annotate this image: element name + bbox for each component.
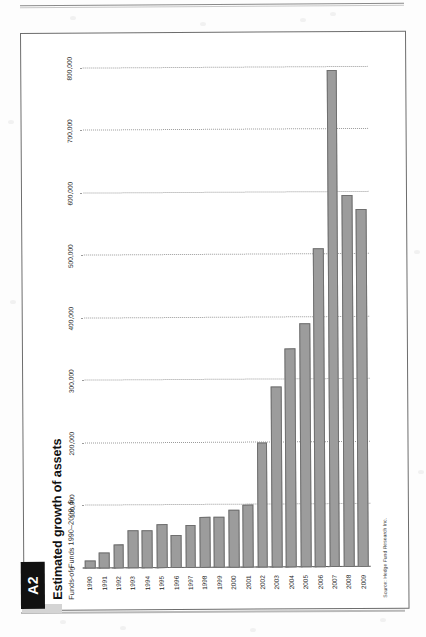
scan-speckle [8,120,14,124]
axis-tick-label: 100,000 [68,494,75,518]
axis-tick-label: 400,000 [67,307,74,331]
category-tick [97,568,101,569]
category-tick [112,567,116,568]
category-tick [212,567,216,568]
category-label-1997: 1997 [187,576,194,590]
scan-speckle [70,16,76,20]
category-tick [126,567,130,568]
bar [214,517,225,568]
category-tick [83,568,87,569]
bar [142,531,153,569]
category-tick [270,566,274,567]
category-tick [227,567,231,568]
category-label-1995: 1995 [158,576,165,590]
gridline [81,253,369,256]
axis-tick-label: 700,000 [66,119,73,143]
bar [185,525,196,568]
plot-area: 0100,000200,000300,000400,000500,000600,… [80,67,371,569]
gridline [82,503,370,506]
scan-speckle [250,628,256,632]
scan-speckle [414,250,420,254]
axis-tick-label: 500,000 [67,244,74,268]
scan-speckle [200,22,206,26]
category-label-2002: 2002 [259,575,266,589]
bar [285,349,297,568]
bar [313,248,326,567]
bar [271,387,283,568]
chart-title: Estimated growth of assets [50,439,65,600]
gridline [82,441,370,444]
category-label-1990: 1990 [86,576,93,590]
bar [156,524,167,568]
category-label-1998: 1998 [201,576,208,590]
scan-speckle [120,626,126,630]
scan-speckle [300,18,306,22]
category-label-1993: 1993 [129,576,136,590]
category-label-2009: 2009 [360,575,367,589]
category-label-2003: 2003 [273,575,280,589]
category-tick [241,567,245,568]
category-label-1991: 1991 [100,576,107,590]
category-tick [198,567,202,568]
axis-tick-label: 0 [69,567,76,571]
gridline [80,66,368,69]
category-label-1994: 1994 [144,576,151,590]
scan-speckle [60,620,66,624]
category-label-1992: 1992 [115,576,122,590]
scan-speckle [330,12,336,16]
category-tick [342,566,346,567]
category-tick [155,567,159,568]
category-label-2008: 2008 [345,575,352,589]
category-label-1996: 1996 [172,576,179,590]
category-tick [313,566,317,567]
category-tick [356,566,360,567]
bar [356,209,369,567]
category-tick [256,567,260,568]
axis-tick-label: 300,000 [68,369,75,393]
scan-speckle [418,470,424,474]
category-label-2001: 2001 [244,575,251,589]
bar [257,442,269,567]
bar [299,323,311,567]
chapter-tag-badge: A2 [21,562,45,609]
scan-speckle [10,300,16,304]
rotated-page-content: A2 Estimated growth of assets Funds-of-F… [17,31,405,609]
bar [99,552,110,568]
chapter-tag-label: A2 [21,562,45,609]
gridline [82,378,370,381]
category-label-2000: 2000 [230,575,237,589]
bar [242,505,253,568]
category-label-2005: 2005 [302,575,309,589]
category-label-2007: 2007 [331,575,338,589]
bar [341,195,354,567]
category-tick [328,566,332,567]
category-label-1999: 1999 [216,576,223,590]
category-label-2006: 2006 [316,575,323,589]
bar [127,531,138,569]
gridline [80,191,368,194]
category-tick [169,567,173,568]
category-tick [140,567,144,568]
category-tick [299,566,303,567]
bar [171,536,182,569]
bar [199,517,210,568]
axis-tick-label: 200,000 [68,432,75,456]
category-label-2004: 2004 [288,575,295,589]
category-tick [184,567,188,568]
bar [326,70,340,567]
gridline [80,128,368,131]
chart-source-note: Source: Hedge Fund Research Inc. [381,518,387,598]
bar [113,545,124,569]
scan-speckle [380,618,386,622]
axis-tick-label: 600,000 [66,182,73,206]
category-tick [284,566,288,567]
axis-tick-label: 800,000 [66,57,73,81]
gridline [81,316,369,319]
bar [228,510,239,568]
